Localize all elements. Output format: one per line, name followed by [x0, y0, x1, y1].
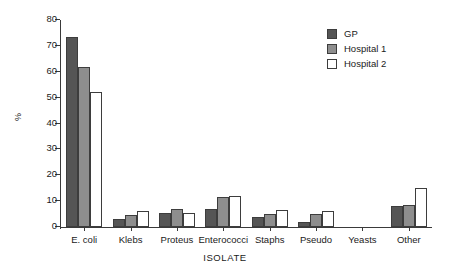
bar-proteus-hospital-2	[183, 213, 195, 227]
bar-e-coli-hospital-2	[90, 92, 102, 227]
bar-group-e-coli	[66, 20, 102, 227]
bar-group-enterococci	[205, 20, 241, 227]
bar-other-hospital-2	[415, 188, 427, 227]
x-tick-mark	[84, 227, 85, 231]
bar-pseudo-hospital-1	[310, 214, 322, 227]
x-tick-mark	[131, 227, 132, 231]
bar-other-gp	[391, 206, 403, 227]
x-axis-label-other: Other	[379, 234, 439, 245]
bar-staphs-hospital-1	[264, 214, 276, 227]
bar-pseudo-hospital-2	[322, 211, 334, 227]
y-tick-label: 50	[31, 91, 57, 102]
legend-swatch-icon	[327, 29, 337, 39]
bar-klebs-hospital-1	[125, 215, 137, 227]
x-tick-mark	[409, 227, 410, 231]
bar-e-coli-hospital-1	[78, 67, 90, 227]
legend-swatch-icon	[327, 59, 337, 69]
x-axis-title: ISOLATE	[0, 252, 450, 263]
bar-group-other	[391, 20, 427, 227]
bar-pseudo-gp	[298, 222, 310, 227]
legend-item-hospital-2: Hospital 2	[327, 56, 386, 71]
bar-klebs-hospital-2	[137, 211, 149, 227]
legend-label: GP	[344, 28, 358, 39]
bar-enterococci-hospital-2	[229, 196, 241, 227]
bar-e-coli-gp	[66, 37, 78, 227]
bar-other-hospital-1	[403, 205, 415, 227]
bar-chart-figure: % 01020304050607080 E. coliKlebsProteusE…	[0, 0, 450, 268]
bar-proteus-hospital-1	[171, 209, 183, 227]
bar-staphs-gp	[252, 217, 264, 227]
y-axis-title: %	[13, 107, 23, 127]
bar-enterococci-gp	[205, 209, 217, 227]
y-tick-label: 10	[31, 194, 57, 205]
legend: GPHospital 1Hospital 2	[327, 26, 386, 71]
legend-label: Hospital 1	[344, 43, 386, 54]
x-tick-mark	[362, 227, 363, 231]
y-tick-label: 0	[31, 220, 57, 231]
bar-enterococci-hospital-1	[217, 197, 229, 227]
y-tick-label: 70	[31, 39, 57, 50]
legend-item-gp: GP	[327, 26, 386, 41]
legend-label: Hospital 2	[344, 58, 386, 69]
bar-staphs-hospital-2	[276, 210, 288, 227]
y-tick-label: 80	[31, 13, 57, 24]
x-tick-mark	[316, 227, 317, 231]
legend-swatch-icon	[327, 44, 337, 54]
x-tick-mark	[177, 227, 178, 231]
y-tick-label: 40	[31, 117, 57, 128]
y-tick-label: 30	[31, 142, 57, 153]
bar-group-klebs	[113, 20, 149, 227]
bar-group-proteus	[159, 20, 195, 227]
bar-klebs-gp	[113, 219, 125, 227]
y-tick-label: 60	[31, 65, 57, 76]
bar-group-staphs	[252, 20, 288, 227]
x-axis-line	[60, 227, 432, 228]
legend-item-hospital-1: Hospital 1	[327, 41, 386, 56]
x-tick-mark	[270, 227, 271, 231]
x-tick-mark	[223, 227, 224, 231]
y-tick-label: 20	[31, 168, 57, 179]
bar-proteus-gp	[159, 213, 171, 227]
